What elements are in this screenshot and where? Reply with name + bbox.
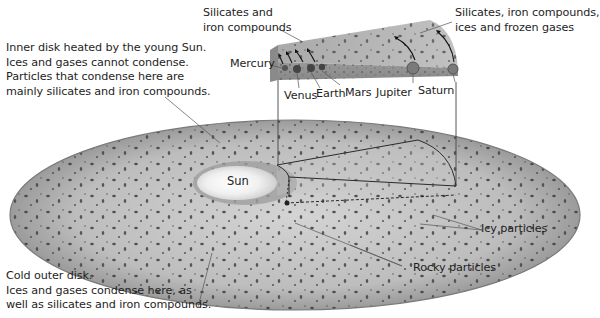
outer-wedge-material-label: Silicates, iron compounds, ices and froz… bbox=[455, 6, 600, 35]
outer-disk-line-3: well as silicates and iron compounds. bbox=[6, 298, 211, 313]
icy-particles-label: Icy particles bbox=[481, 222, 547, 237]
outer-wedge-line-2: ices and frozen gases bbox=[455, 21, 600, 36]
outer-disk-annotation: Cold outer disk. Ices and gases condense… bbox=[6, 269, 211, 313]
inner-disk-line-4: mainly silicates and iron compounds. bbox=[6, 85, 211, 100]
inner-disk-line-2: Ices and gases cannot condense. bbox=[6, 56, 211, 71]
rocky-particles-label: Rocky particles bbox=[413, 261, 496, 276]
outer-wedge-line-1: Silicates, iron compounds, bbox=[455, 6, 600, 21]
inner-disk-line-1: Inner disk heated by the young Sun. bbox=[6, 41, 211, 56]
inner-wedge-material-label: Silicates and iron compounds bbox=[203, 6, 292, 35]
sun-label: Sun bbox=[227, 174, 249, 188]
planet-mercury bbox=[282, 65, 288, 71]
planet-label-mercury: Mercury bbox=[230, 57, 275, 72]
planet-mars bbox=[319, 64, 325, 70]
planet-earth bbox=[307, 64, 315, 72]
inner-wedge-line-1: Silicates and bbox=[203, 6, 292, 21]
inner-wedge-line-2: iron compounds bbox=[203, 21, 292, 36]
inner-disk-annotation: Inner disk heated by the young Sun. Ices… bbox=[6, 41, 211, 99]
planet-label-saturn: Saturn bbox=[418, 84, 454, 99]
outer-disk-line-2: Ices and gases condense here, as bbox=[6, 284, 211, 299]
planet-jupiter bbox=[407, 62, 419, 74]
inner-disk-line-3: Particles that condense here are bbox=[6, 70, 211, 85]
planet-label-mars: Mars bbox=[345, 86, 372, 101]
planet-label-jupiter: Jupiter bbox=[376, 86, 412, 101]
planet-label-earth: Earth bbox=[316, 87, 346, 102]
planet-label-venus: Venus bbox=[284, 89, 317, 104]
planet-venus bbox=[293, 65, 301, 73]
outer-disk-line-1: Cold outer disk. bbox=[6, 269, 211, 284]
planet-saturn bbox=[448, 64, 458, 74]
